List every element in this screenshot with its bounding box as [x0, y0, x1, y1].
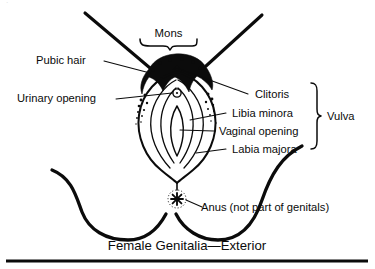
vaginal-opening-leader [180, 130, 214, 131]
labia-majora-label: Labia majora [232, 143, 297, 155]
vulva-callout: Vulva [311, 83, 355, 149]
urinary-opening-dot [176, 92, 178, 94]
libia-minora-leader [190, 113, 226, 120]
labia-majora-leader [196, 149, 226, 153]
left-callouts: Pubic hair Urinary opening [17, 54, 172, 104]
vulva-brace [311, 83, 321, 149]
figure-caption: Female Genitalia—Exterior [108, 238, 267, 253]
figure-page: · [0, 0, 375, 269]
clitoris-label: Clitoris [255, 88, 290, 100]
vaginal-opening-slit [171, 106, 184, 156]
pubic-hair-label: Pubic hair [36, 54, 86, 66]
groin-line-right [206, 15, 262, 66]
scan-artifact-text: · [6, 0, 8, 6]
anus-callout: Anus (not part of genitals) [186, 200, 329, 213]
mons-callout: Mons [140, 27, 197, 50]
thigh-right [176, 146, 302, 240]
labia-minora-right [178, 88, 193, 163]
urinary-opening-label: Urinary opening [17, 92, 96, 104]
vulva-figure [138, 66, 215, 190]
labia-minora-left [161, 88, 176, 163]
anus-leader [186, 200, 202, 207]
mons-label: Mons [155, 27, 183, 39]
vulva-label: Vulva [327, 110, 355, 122]
anus-marker [168, 190, 186, 208]
thigh-left [52, 170, 166, 240]
anus-label: Anus (not part of genitals) [201, 201, 329, 213]
female-genitalia-diagram: · [0, 0, 375, 269]
libia-minora-label: Libia minora [232, 107, 294, 119]
mons-brace [140, 39, 197, 50]
anus-center [175, 197, 180, 202]
vaginal-opening-label: Vaginal opening [219, 125, 298, 137]
